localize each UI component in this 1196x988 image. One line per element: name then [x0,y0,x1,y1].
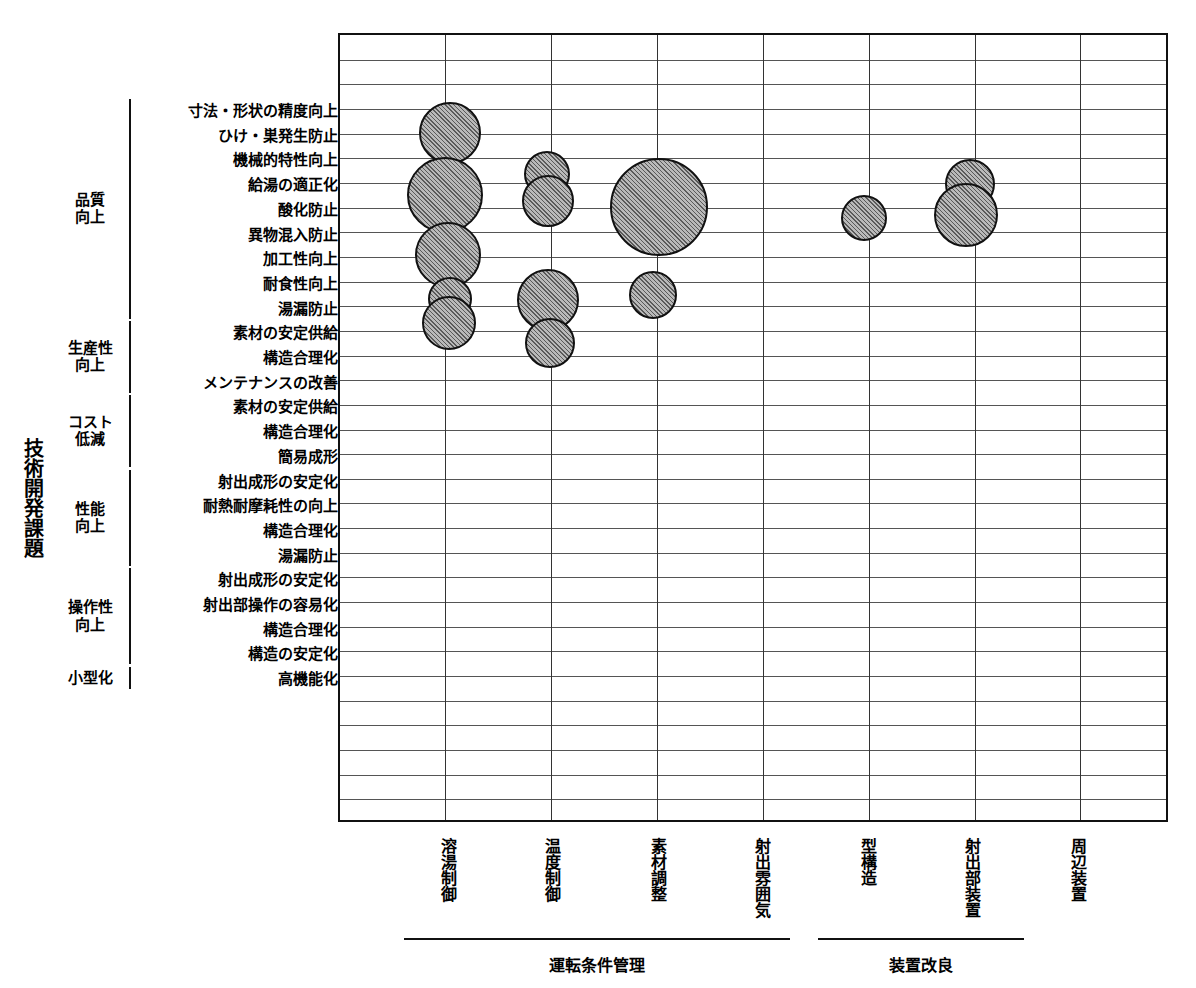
grid-hline [340,553,1166,554]
grid-vline [657,35,658,820]
grid-vline [869,35,870,820]
row-label: ひけ・巣発生防止 [118,128,338,143]
column-group-label: 運転条件管理 [404,952,790,976]
bubble-marker [841,195,887,241]
bubble-marker [422,296,476,350]
row-label: 構造の安定化 [118,646,338,661]
bubble-marker [522,175,574,227]
row-label: 構造合理化 [118,424,338,439]
grid-hline [340,60,1166,61]
grid-hline [340,479,1166,480]
column-group-bracket [404,938,790,940]
row-label: 寸法・形状の精度向上 [118,103,338,118]
grid-hline [340,380,1166,381]
row-group-label: 操作性 向上 [58,598,122,633]
row-group-label: コスト 低減 [58,413,122,448]
bubble-marker [525,318,575,368]
y-axis-title: 技術開発課題 [8,438,42,558]
row-label: 素材の安定供給 [118,399,338,414]
grid-hline [340,775,1166,776]
row-group-label: 性能 向上 [58,500,122,535]
column-label: 射出部装置 [963,838,979,918]
column-label: 温度制御 [543,838,559,902]
grid-hline [340,528,1166,529]
grid-hline [340,676,1166,677]
chart-canvas: 技術開発課題 品質 向上生産性 向上コスト 低減性能 向上操作性 向上小型化 寸… [0,0,1196,988]
grid-hline [340,405,1166,406]
row-label: 構造合理化 [118,523,338,538]
row-label: 酸化防止 [118,202,338,217]
grid-hline [340,627,1166,628]
grid-hline [340,84,1166,85]
column-label: 型構造 [859,838,875,886]
row-label: 給湯の適正化 [118,177,338,192]
column-label: 周辺装置 [1069,838,1085,902]
grid-hline [340,454,1166,455]
row-label: 加工性向上 [118,251,338,266]
bubble-marker [629,271,677,319]
grid-vline [763,35,764,820]
row-label: 構造合理化 [118,622,338,637]
row-label: 異物混入防止 [118,227,338,242]
grid-hline [340,799,1166,800]
bubble-marker [610,158,708,256]
column-label: 溶湯制御 [439,838,455,902]
column-group-label: 装置改良 [818,952,1024,976]
row-group-label: 生産性 向上 [58,339,122,374]
row-label: 機械的特性向上 [118,152,338,167]
grid-hline [340,430,1166,431]
row-label: 射出成形の安定化 [118,572,338,587]
row-label: 素材の安定供給 [118,325,338,340]
column-group-bracket [818,938,1024,940]
row-label: 構造合理化 [118,350,338,365]
bubble-marker [934,183,998,247]
grid-hline [340,356,1166,357]
column-label: 素材調整 [649,838,665,902]
column-label: 射出雰囲気 [753,838,769,918]
row-label: 湯漏防止 [118,548,338,563]
row-group-label: 品質 向上 [58,191,122,226]
plot-grid [338,33,1168,822]
grid-hline [340,577,1166,578]
row-label: 射出成形の安定化 [118,474,338,489]
grid-vline [975,35,976,820]
grid-hline [340,750,1166,751]
grid-hline [340,503,1166,504]
row-group-label: 小型化 [58,669,122,686]
grid-vline [1080,35,1081,820]
grid-hline [340,602,1166,603]
grid-hline [340,725,1166,726]
grid-hline [340,651,1166,652]
row-label-container: 寸法・形状の精度向上ひけ・巣発生防止機械的特性向上給湯の適正化酸化防止異物混入防… [118,0,338,988]
row-label: 耐食性向上 [118,276,338,291]
row-label: 高機能化 [118,671,338,686]
grid-hline [340,701,1166,702]
row-label: 射出部操作の容易化 [118,597,338,612]
row-label: メンテナンスの改善 [118,375,338,390]
row-label: 簡易成形 [118,449,338,464]
row-label: 湯漏防止 [118,301,338,316]
bubble-marker [419,102,481,164]
row-label: 耐熱耐摩耗性の向上 [118,498,338,513]
